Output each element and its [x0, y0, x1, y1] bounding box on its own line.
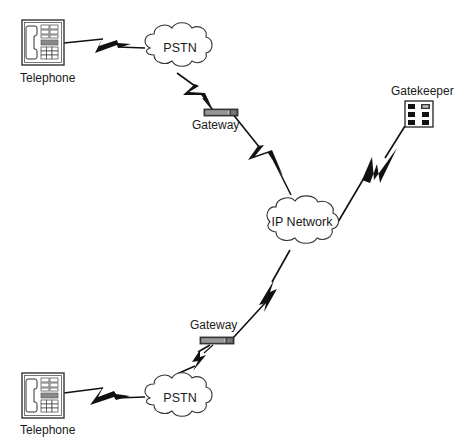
network-diagram — [0, 0, 457, 448]
link-pstn-top-to-gateway-top — [177, 73, 213, 110]
link-gateway-bottom-to-pstn-bottom — [177, 345, 213, 374]
link-ip-network-to-gatekeeper — [338, 126, 405, 222]
gatekeeper-label: Gatekeeper — [391, 84, 454, 98]
gateway-top-label: Gateway — [192, 118, 239, 132]
telephone-top-label: Telephone — [20, 71, 75, 85]
link-gateway-top-to-ip-network — [232, 113, 291, 195]
link-pstn-bottom-to-telephone-bottom — [64, 386, 145, 405]
ip-network-label: IP Network — [272, 215, 333, 229]
links — [64, 37, 405, 405]
telephone-bottom-icon[interactable] — [22, 373, 64, 418]
telephone-bottom-label: Telephone — [20, 423, 75, 437]
link-telephone-top-to-pstn-top — [64, 37, 145, 53]
pstn-bottom-label: PSTN — [163, 391, 196, 405]
gateway-top-icon[interactable] — [204, 109, 238, 116]
gatekeeper-icon[interactable] — [405, 101, 433, 127]
telephone-top-icon[interactable] — [22, 20, 64, 65]
link-ip-network-to-gateway-bottom — [233, 250, 290, 338]
pstn-top-label: PSTN — [163, 41, 196, 55]
gateway-bottom-label: Gateway — [190, 318, 237, 332]
gateway-bottom-icon[interactable] — [200, 337, 234, 344]
